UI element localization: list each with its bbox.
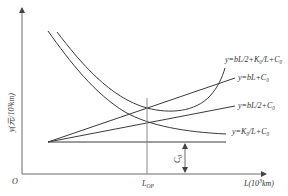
x-axis-suffix: km) — [262, 179, 274, 188]
lop-sub: OP — [146, 183, 154, 189]
c0-sub: 0 — [177, 155, 183, 158]
line-bl-label: y=bL+C₀ — [237, 73, 269, 82]
origin-label: O — [12, 177, 18, 186]
curve-k0-label: y=K₀/L+C₀ — [231, 127, 269, 136]
c0-label: C0 — [173, 155, 183, 163]
y-axis-label: y(元/10³km) — [7, 93, 16, 133]
curve-total-label: y=bL/2+K₀/L+C₀ — [224, 55, 283, 64]
x-axis-label: L(103km) — [243, 178, 274, 188]
curve-total-cost — [57, 32, 225, 111]
x-axis-prefix: L(10 — [243, 179, 259, 188]
lop-tick-label: LOP — [141, 179, 154, 189]
line-half-bl-plus-c0 — [48, 106, 235, 142]
curve-k0-over-l-plus-c0 — [48, 31, 226, 134]
line-half-bl-label: y=bL/2+C₀ — [237, 101, 275, 110]
cost-chart: y=bL/2+K₀/L+C₀ y=bL+C₀ y=bL/2+C₀ y=K₀/L+… — [0, 0, 288, 196]
